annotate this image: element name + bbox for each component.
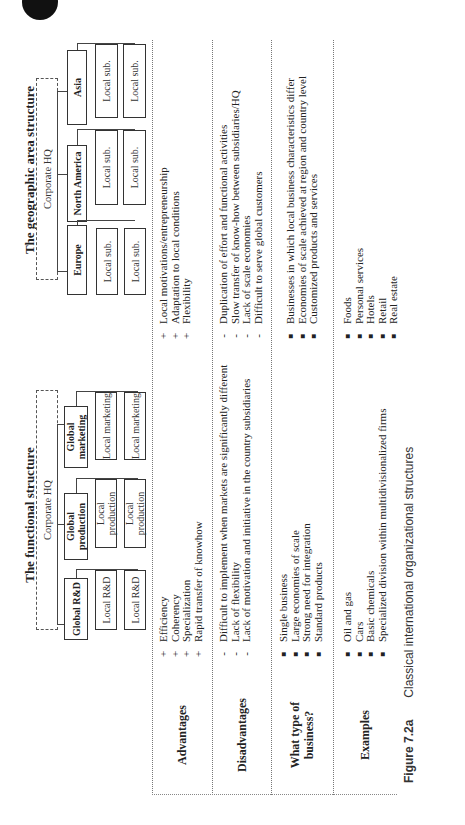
row-label-examples: Examples	[333, 675, 397, 795]
functional-examples-list: ■Oil and gas ■Cars ■Basic chemicals ■Spe…	[342, 409, 388, 660]
list-item: -Lack of motivation and initiative in th…	[241, 360, 253, 660]
list-item: ■Standard products	[313, 523, 325, 660]
row-label-disadvantages: Disadvantages	[212, 675, 271, 795]
geographic-disadvantages-list: -Duplication of effort and functional ac…	[218, 90, 264, 342]
local-production-box: Local production	[95, 479, 117, 548]
global-marketing-box: Global marketing	[64, 406, 88, 468]
list-item: -Difficult to serve global customers	[253, 90, 265, 342]
local-sub-box: Local sub.	[96, 228, 118, 295]
figure-number: Figure 7.2a	[402, 720, 416, 783]
local-marketing-box: Local marketing	[95, 392, 117, 460]
local-marketing-box: Local marketing	[124, 392, 146, 460]
row-label-business-type: What type of business?	[271, 675, 333, 795]
row-label-advantages: Advantages	[152, 675, 212, 795]
local-sub-box: Local sub.	[95, 44, 118, 118]
list-item: ■Specialized division within multidivisi…	[377, 409, 389, 660]
figure-caption-text: Classical international organizational s…	[402, 447, 416, 698]
global-rd-box: Global R&D	[64, 578, 88, 640]
local-sub-box: Local sub.	[123, 44, 146, 118]
region-north-america-box: North America	[67, 145, 87, 222]
local-sub-box: Local sub.	[95, 130, 118, 205]
functional-hq-box: Corporate HQ	[36, 390, 58, 630]
local-rd-box: Local R&D	[95, 570, 117, 630]
list-item: ■Customized products and services	[308, 76, 320, 342]
geographic-examples-list: ■Foods ■Personal services ■Hotels ■Retai…	[342, 248, 400, 342]
local-rd-box: Local R&D	[124, 570, 146, 630]
local-sub-box: Local sub.	[123, 130, 146, 205]
local-sub-box: Local sub.	[124, 228, 146, 295]
geographic-business-type-list: ■Businesses in which local business char…	[285, 76, 320, 342]
region-europe-box: Europe	[67, 225, 87, 295]
functional-advantages-list: +Efficiency +Coherency +Specialization +…	[158, 521, 204, 660]
functional-disadvantages-list: -Difficult to implement when markets are…	[218, 360, 253, 660]
list-item: +Flexibility	[181, 167, 193, 342]
region-asia-box: Asia	[67, 50, 87, 125]
global-production-box: Global production	[64, 493, 88, 560]
rotated-figure: The functional structure Corporate HQ Gl…	[0, 0, 465, 825]
geographic-hq-box: Corporate HQ	[36, 78, 58, 280]
figure-caption: Figure 7.2aClassical international organ…	[402, 447, 416, 783]
geographic-advantages-list: +Local motivations/entrepreneurship +Ada…	[158, 167, 193, 342]
list-item: ■Real estate	[388, 248, 400, 342]
list-item: +Rapid transfer of knowhow	[193, 521, 205, 660]
local-production-box: Local production	[124, 479, 146, 548]
functional-business-type-list: ■Single business ■Large economies of sca…	[278, 523, 324, 660]
list-item: ■Hotels	[365, 248, 377, 342]
